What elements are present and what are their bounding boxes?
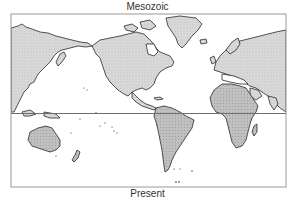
landmass-australia	[28, 126, 60, 152]
landmass-east-asia	[11, 24, 92, 112]
landmass-new-zealand	[72, 150, 80, 162]
landmass-greenland	[166, 16, 202, 48]
world-map	[0, 0, 295, 201]
landmass-south-america	[154, 106, 194, 172]
landmass-japan	[56, 52, 66, 66]
landmass-central-america	[132, 92, 156, 110]
pacific-islands	[55, 87, 117, 156]
landmass-north-america	[92, 32, 174, 96]
bottom-label-present: Present	[0, 188, 295, 200]
landmass-madagascar	[252, 124, 257, 136]
